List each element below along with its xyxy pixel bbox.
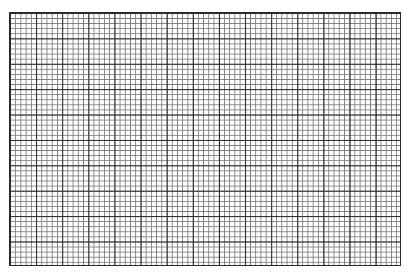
graph-paper-grid [9, 12, 401, 266]
